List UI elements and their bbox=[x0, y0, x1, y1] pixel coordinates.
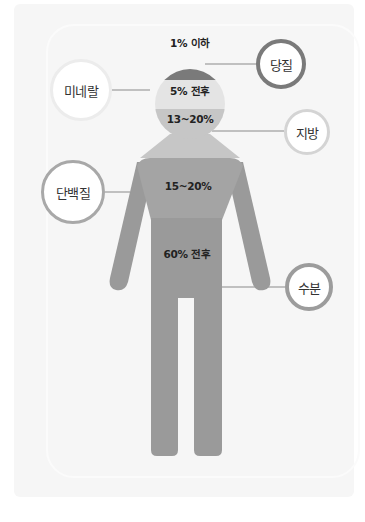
bubble-protein: 단백질 bbox=[41, 160, 105, 224]
bubble-sugar: 당질 bbox=[256, 39, 306, 89]
bubble-fat: 지방 bbox=[284, 109, 330, 155]
head bbox=[150, 65, 230, 144]
bubble-mineral: 미네랄 bbox=[50, 59, 112, 121]
percent-fat: 13~20% bbox=[167, 113, 214, 125]
label-sugar: 당질 bbox=[270, 55, 293, 74]
label-water: 수분 bbox=[298, 278, 321, 297]
right-leg bbox=[194, 296, 222, 456]
label-fat: 지방 bbox=[296, 123, 319, 142]
percent-sugar: 1% 이하 bbox=[170, 35, 210, 50]
percent-mineral: 5% 전후 bbox=[170, 83, 210, 98]
label-protein: 단백질 bbox=[56, 183, 91, 202]
label-mineral: 미네랄 bbox=[64, 81, 99, 100]
bubble-water: 수분 bbox=[285, 263, 333, 311]
left-leg bbox=[151, 296, 178, 456]
percent-water: 60% 전후 bbox=[164, 246, 211, 261]
head-sugar-band bbox=[150, 65, 230, 80]
percent-protein: 15~20% bbox=[165, 180, 212, 192]
